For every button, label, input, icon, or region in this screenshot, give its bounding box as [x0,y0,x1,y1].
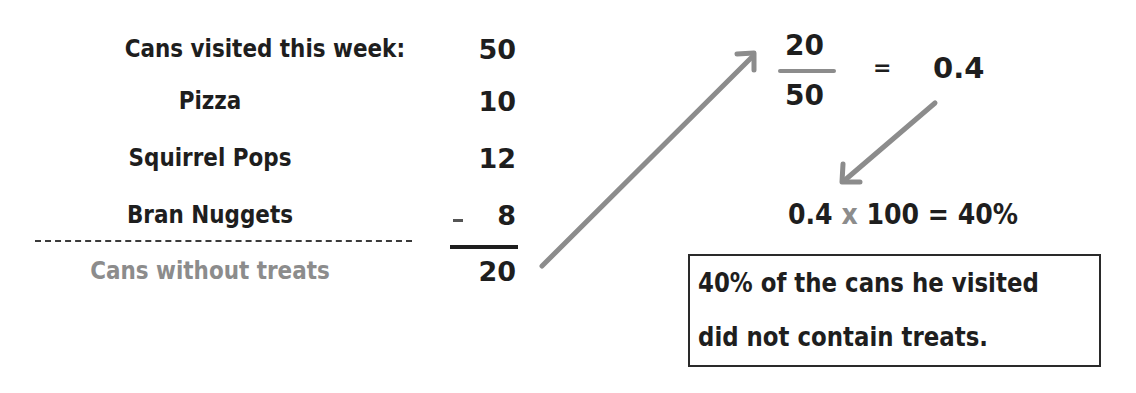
sum-line [450,245,518,249]
fraction-decimal: 0.4 [933,54,984,83]
fraction-equals: = [873,57,891,79]
fraction-denominator: 50 [785,82,824,110]
conclusion-line-2: did not contain treats. [698,322,988,352]
cans-visited-value: 50 [436,36,516,63]
fraction-numerator: 20 [785,32,824,60]
pizza-label: Pizza [29,88,390,113]
dashed-divider [35,240,412,242]
conclusion-box: 40% of the cans he visited did not conta… [688,254,1101,367]
conversion-multiplier: 100 [866,198,919,231]
cans-without-treats-label: Cans without treats [29,258,390,283]
conversion-equals: = [928,198,949,231]
conclusion-line-1: 40% of the cans he visited [698,268,1039,298]
multiply-sign: x [841,198,857,231]
pizza-value: 10 [436,88,516,115]
percent-conversion: 0.4 x 100 = 40% [788,201,1018,229]
bran-nuggets-value: 8 [436,202,516,229]
arrow-to-conversion-icon [842,103,935,182]
conversion-result: 40% [958,198,1018,231]
cans-without-treats-value: 20 [436,258,516,285]
fraction-bar [778,69,836,73]
conversion-left: 0.4 [788,198,833,231]
bran-nuggets-label: Bran Nuggets [29,202,390,227]
cans-visited-label: Cans visited this week: [57,36,405,61]
squirrel-pops-label: Squirrel Pops [29,145,390,170]
arrow-to-fraction-icon [542,53,754,266]
squirrel-pops-value: 12 [436,145,516,172]
